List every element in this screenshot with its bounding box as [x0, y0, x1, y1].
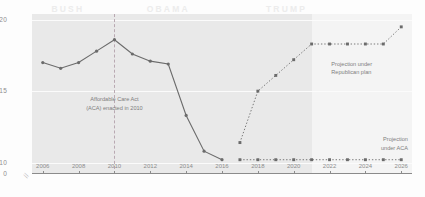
data-point-1-2022 [328, 43, 331, 46]
x-tick-label-2012: 2012 [144, 163, 157, 169]
data-point-1-2021 [310, 43, 313, 46]
data-point-2-2025 [382, 158, 385, 161]
data-point-2-2020 [292, 158, 295, 161]
data-point-0-2010 [113, 38, 116, 41]
data-point-1-2025 [382, 43, 385, 46]
x-tick-2016 [222, 171, 223, 174]
era-label-obama: OBAMA [147, 4, 190, 14]
data-point-0-2016 [220, 158, 223, 161]
annotation-republican-line1: Projection under [331, 60, 372, 69]
annotation-republican-line2: Republican plan [331, 68, 372, 77]
x-tick-label-2024: 2024 [359, 163, 372, 169]
data-point-0-2009 [95, 50, 98, 53]
x-tick-2024 [365, 171, 366, 174]
y-axis-break-symbol: // [22, 172, 30, 179]
data-point-1-2018 [256, 90, 259, 93]
x-tick-label-2020: 2020 [287, 163, 300, 169]
x-tick-label-2010: 2010 [108, 163, 121, 169]
x-tick-2020 [294, 171, 295, 174]
annotation-aca-line1: Affordable Care Act [86, 95, 143, 104]
annotation-aca-line2: (ACA) enacted in 2010 [86, 104, 143, 113]
data-point-2-2026 [400, 158, 403, 161]
data-point-2-2019 [274, 158, 277, 161]
x-tick-label-2014: 2014 [179, 163, 192, 169]
annotation-aca-projection: Projection under ACA [315, 135, 408, 152]
data-point-1-2017 [238, 141, 241, 144]
data-point-1-2019 [274, 74, 277, 77]
x-tick-label-2008: 2008 [72, 163, 85, 169]
data-point-0-2007 [59, 67, 62, 70]
data-point-1-2026 [400, 25, 403, 28]
series-line-1 [240, 27, 401, 143]
data-point-2-2022 [328, 158, 331, 161]
data-point-2-2021 [310, 158, 313, 161]
x-tick-2010 [114, 171, 115, 174]
data-point-1-2024 [364, 43, 367, 46]
data-point-0-2012 [149, 60, 152, 63]
x-tick-2006 [43, 171, 44, 174]
data-point-1-2023 [346, 43, 349, 46]
data-point-0-2008 [77, 61, 80, 64]
annotation-republican-projection: Projection under Republican plan [331, 60, 372, 77]
annotation-acaproj-line1: Projection [315, 135, 408, 144]
data-point-0-2013 [167, 62, 170, 65]
era-label-trump: TRUMP [266, 4, 307, 14]
annotation-acaproj-line2: under ACA [315, 144, 408, 153]
data-point-0-2014 [185, 114, 188, 117]
data-point-2-2018 [256, 158, 259, 161]
y-tick-label-10: 10 [0, 159, 7, 166]
y-tick-label-0: 0 [0, 170, 7, 177]
y-tick-label-20: 20 [0, 16, 7, 23]
annotation-aca-enacted: Affordable Care Act (ACA) enacted in 201… [86, 95, 143, 112]
x-tick-label-2016: 2016 [215, 163, 228, 169]
y-tick-label-15: 15 [0, 87, 7, 94]
x-tick-label-2018: 2018 [251, 163, 264, 169]
data-point-0-2006 [41, 61, 44, 64]
x-tick-2012 [150, 171, 151, 174]
x-tick-2014 [186, 171, 187, 174]
data-point-1-2020 [292, 58, 295, 61]
x-tick-2018 [258, 171, 259, 174]
data-point-2-2024 [364, 158, 367, 161]
era-label-bush: BUSH [51, 4, 84, 14]
data-point-2-2023 [346, 158, 349, 161]
x-tick-2008 [79, 171, 80, 174]
x-tick-label-2026: 2026 [395, 163, 408, 169]
x-tick-2022 [330, 171, 331, 174]
x-tick-label-2006: 2006 [36, 163, 49, 169]
data-point-0-2015 [202, 150, 205, 153]
data-point-2-2017 [238, 158, 241, 161]
data-point-0-2011 [131, 52, 134, 55]
x-tick-label-2022: 2022 [323, 163, 336, 169]
chart-figure: 2015100 20062008201020122014201620182020… [0, 0, 425, 197]
x-tick-2026 [401, 171, 402, 174]
